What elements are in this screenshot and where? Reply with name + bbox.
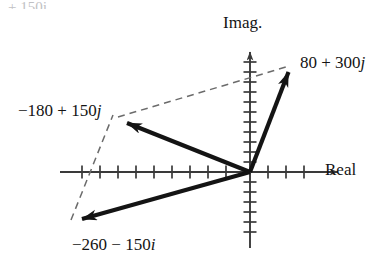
vector-sum-operator: +	[321, 53, 331, 72]
vector-b-imag-part: 150	[125, 235, 151, 254]
vector-a-imaginary-unit: j	[97, 101, 102, 120]
vector-b-real-part: −260	[72, 235, 107, 254]
vector-sum-imag-part: 300	[335, 53, 361, 72]
complex-plane-diagram	[0, 0, 389, 274]
vector-a-real-part: −180	[18, 101, 53, 120]
vector-sum-imaginary-unit: j	[361, 53, 366, 72]
vector-b-operator: −	[111, 235, 121, 254]
vector-label-b: −260 − 150i	[72, 236, 155, 253]
cropped-top-text: + 150j	[8, 0, 47, 9]
real-axis-label: Real	[325, 161, 356, 178]
vector-sum-real-part: 80	[300, 53, 317, 72]
vector-label-a: −180 + 150j	[18, 102, 101, 119]
vector-a-imag-part: 150	[71, 101, 97, 120]
vector-b-imaginary-unit: i	[151, 235, 156, 254]
vector-label-sum: 80 + 300j	[300, 54, 365, 71]
figure-background	[0, 0, 389, 274]
imag-axis-label: Imag.	[223, 14, 262, 31]
vector-a-operator: +	[57, 101, 67, 120]
